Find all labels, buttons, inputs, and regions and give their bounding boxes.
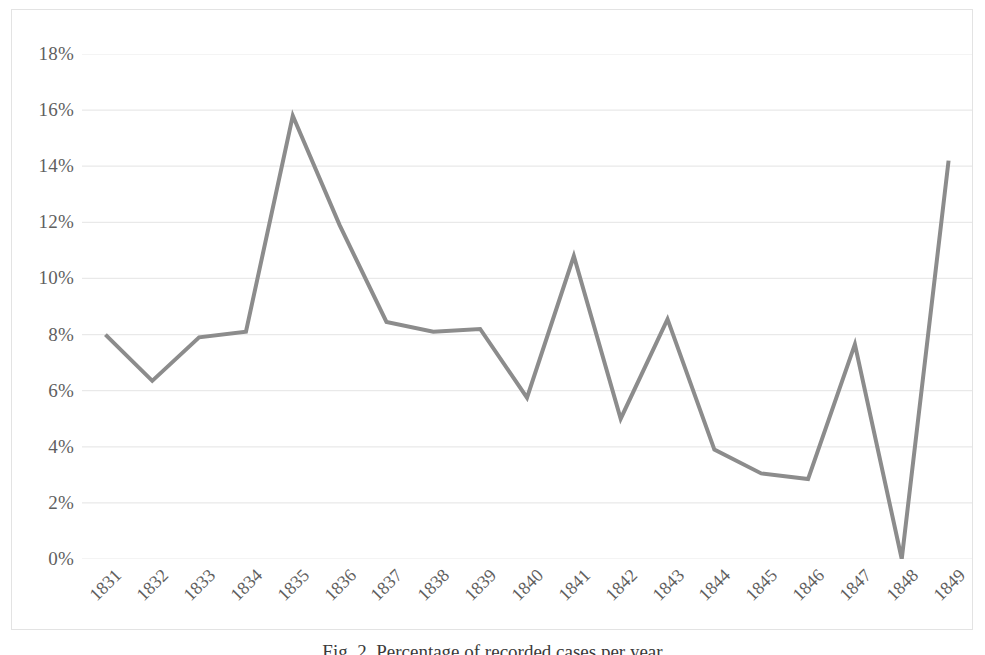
x-tick-label: 1833 bbox=[168, 565, 220, 617]
y-tick-label: 18% bbox=[39, 43, 74, 65]
x-axis: 1831183218331834183518361837183818391840… bbox=[82, 561, 972, 637]
y-tick-label: 8% bbox=[48, 324, 74, 346]
y-tick-label: 4% bbox=[48, 436, 74, 458]
plot-area bbox=[82, 54, 972, 559]
x-tick-label: 1845 bbox=[730, 565, 782, 617]
x-tick-label: 1831 bbox=[75, 565, 127, 617]
y-tick-label: 0% bbox=[48, 548, 74, 570]
y-tick-label: 12% bbox=[39, 211, 74, 233]
data-series-group bbox=[105, 116, 948, 559]
y-tick-label: 16% bbox=[39, 99, 74, 121]
chart-frame: 0%2%4%6%8%10%12%14%16%18% 18311832183318… bbox=[11, 9, 973, 630]
y-axis: 0%2%4%6%8%10%12%14%16%18% bbox=[23, 54, 82, 559]
gridlines bbox=[82, 54, 972, 559]
x-tick-label: 1848 bbox=[871, 565, 923, 617]
data-line-percentage bbox=[105, 116, 948, 559]
y-tick-label: 6% bbox=[48, 380, 74, 402]
x-tick-label: 1837 bbox=[356, 565, 408, 617]
x-tick-label: 1844 bbox=[684, 565, 736, 617]
line-chart-svg bbox=[82, 54, 972, 559]
y-tick-label: 14% bbox=[39, 155, 74, 177]
x-tick-label: 1846 bbox=[777, 565, 829, 617]
x-tick-label: 1835 bbox=[262, 565, 314, 617]
x-tick-label: 1836 bbox=[309, 565, 361, 617]
x-tick-label: 1841 bbox=[543, 565, 595, 617]
y-tick-label: 10% bbox=[39, 267, 74, 289]
x-tick-label: 1849 bbox=[918, 565, 970, 617]
x-tick-label: 1840 bbox=[496, 565, 548, 617]
figure-caption: Fig. 2. Percentage of recorded cases per… bbox=[0, 641, 985, 655]
figure-container: 0%2%4%6%8%10%12%14%16%18% 18311832183318… bbox=[0, 0, 985, 655]
x-tick-label: 1838 bbox=[403, 565, 455, 617]
x-tick-label: 1843 bbox=[637, 565, 689, 617]
x-tick-label: 1832 bbox=[121, 565, 173, 617]
x-tick-label: 1847 bbox=[824, 565, 876, 617]
x-tick-label: 1839 bbox=[449, 565, 501, 617]
x-tick-label: 1834 bbox=[215, 565, 267, 617]
y-tick-label: 2% bbox=[48, 492, 74, 514]
x-tick-label: 1842 bbox=[590, 565, 642, 617]
